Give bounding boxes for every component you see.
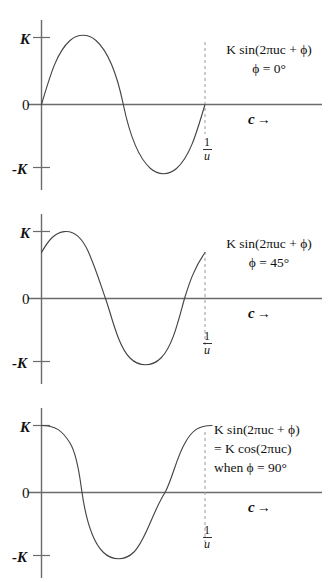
y-tick-label-negative-K: -K <box>12 550 27 565</box>
formula-line-1: K sin(2πuc + ϕ) <box>214 420 300 439</box>
period-label-one-over-u: 1 u <box>198 136 216 162</box>
x-axis-label: c→ <box>248 305 271 322</box>
formula-line-2: ϕ = 45° <box>205 253 333 272</box>
chart-panel-phase-0: K 0 -K c→ 1 u K sin(2πuc + ϕ) ϕ = 0° <box>0 2 335 190</box>
formula-line-2: ϕ = 0° <box>205 59 333 78</box>
plot-svg-phase-45 <box>0 196 335 384</box>
y-tick-label-K: K <box>20 420 30 435</box>
x-axis-label-text: c <box>248 499 255 515</box>
period-numerator: 1 <box>198 330 216 343</box>
chart-panel-phase-45: K 0 -K c→ 1 u K sin(2πuc + ϕ) ϕ = 45° <box>0 196 335 384</box>
y-tick-label-negative-K: -K <box>12 356 27 371</box>
chart-panel-phase-90: K 0 -K c→ 1 u K sin(2πuc + ϕ) = K cos(2π… <box>0 390 335 578</box>
formula-line-3: when ϕ = 90° <box>214 458 300 477</box>
formula-block-phase-45: K sin(2πuc + ϕ) ϕ = 45° <box>205 234 333 272</box>
y-tick-label-negative-K: -K <box>12 162 27 177</box>
plot-svg-phase-90 <box>0 390 335 578</box>
y-tick-label-K: K <box>20 32 30 47</box>
formula-line-1: K sin(2πuc + ϕ) <box>205 234 333 253</box>
x-axis-label: c→ <box>248 499 271 516</box>
formula-line-2: = K cos(2πuc) <box>214 439 300 458</box>
x-axis-label-text: c <box>248 111 255 127</box>
y-tick-label-zero: 0 <box>22 292 30 307</box>
period-numerator: 1 <box>198 136 216 149</box>
right-arrow-icon: → <box>257 306 271 321</box>
x-axis-label-text: c <box>248 305 255 321</box>
right-arrow-icon: → <box>257 112 271 127</box>
period-denominator: u <box>198 150 216 163</box>
y-tick-label-zero: 0 <box>22 486 30 501</box>
y-tick-label-K: K <box>20 226 30 241</box>
period-denominator: u <box>198 344 216 357</box>
period-label-one-over-u: 1 u <box>198 330 216 356</box>
formula-line-1: K sin(2πuc + ϕ) <box>205 40 333 59</box>
sine-phase-figure: K 0 -K c→ 1 u K sin(2πuc + ϕ) ϕ = 0° K 0… <box>0 0 335 582</box>
period-numerator: 1 <box>198 524 216 537</box>
plot-svg-phase-0 <box>0 2 335 190</box>
y-tick-label-zero: 0 <box>22 98 30 113</box>
period-label-one-over-u: 1 u <box>198 524 216 550</box>
formula-block-phase-90: K sin(2πuc + ϕ) = K cos(2πuc) when ϕ = 9… <box>214 420 300 477</box>
x-axis-label: c→ <box>248 111 271 128</box>
formula-block-phase-0: K sin(2πuc + ϕ) ϕ = 0° <box>205 40 333 78</box>
period-denominator: u <box>198 538 216 551</box>
right-arrow-icon: → <box>257 500 271 515</box>
